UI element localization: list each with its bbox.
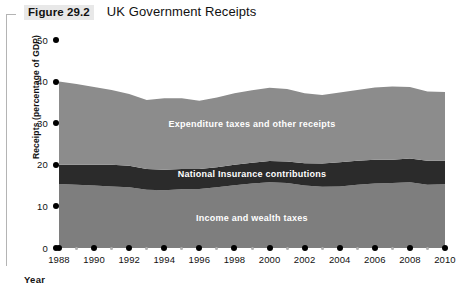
x-axis-label: Year (24, 274, 45, 285)
x-tick-label-1990: 1990 (79, 254, 109, 265)
x-tick-dot-1988 (56, 245, 62, 251)
x-tick-dot-2008 (407, 245, 413, 251)
x-minor-tick-dot-1989 (75, 247, 78, 250)
x-minor-tick-dot-1993 (145, 247, 148, 250)
x-tick-dot-2004 (337, 245, 343, 251)
y-tick-50: 50 (30, 35, 59, 45)
y-tick-10: 10 (30, 201, 59, 211)
page-border-rule (6, 14, 7, 266)
x-tick-dot-2000 (267, 245, 273, 251)
x-tick-dot-1992 (126, 245, 132, 251)
x-tick-dot-1994 (161, 245, 167, 251)
series-label-income-and-wealth-taxes: Income and wealth taxes (59, 213, 445, 223)
x-tick-dot-2002 (302, 245, 308, 251)
y-tick-30: 30 (30, 118, 59, 128)
x-tick-dot-1990 (91, 245, 97, 251)
y-tick-label: 50 (30, 35, 48, 46)
y-tick-label: 20 (30, 159, 48, 170)
x-tick-dot-2010 (442, 245, 448, 251)
x-minor-tick-dot-2001 (286, 247, 289, 250)
x-minor-tick-dot-1995 (180, 247, 183, 250)
x-tick-dot-1998 (231, 245, 237, 251)
x-tick-label-2004: 2004 (325, 254, 355, 265)
x-minor-tick-dot-1999 (251, 247, 254, 250)
x-tick-label-1998: 1998 (219, 254, 249, 265)
y-tick-label: 0 (30, 243, 48, 254)
x-tick-label-1992: 1992 (114, 254, 144, 265)
y-tick-40: 40 (30, 77, 59, 87)
y-tick-20: 20 (30, 160, 59, 170)
series-label-expenditure-taxes: Expenditure taxes and other receipts (59, 119, 445, 129)
figure-header: Figure 29.2 UK Government Receipts (24, 4, 256, 20)
x-tick-label-2000: 2000 (255, 254, 285, 265)
x-tick-label-2002: 2002 (290, 254, 320, 265)
x-minor-tick-dot-2005 (356, 247, 359, 250)
x-minor-tick-dot-2003 (321, 247, 324, 250)
x-tick-dot-2006 (372, 245, 378, 251)
x-tick-label-1996: 1996 (184, 254, 214, 265)
x-minor-tick-dot-2009 (426, 247, 429, 250)
y-tick-0: 0 (30, 243, 59, 253)
figure-title: UK Government Receipts (107, 4, 257, 19)
x-tick-label-1994: 1994 (149, 254, 179, 265)
y-tick-label: 30 (30, 118, 48, 129)
x-tick-label-2006: 2006 (360, 254, 390, 265)
series-label-national-insurance: National Insurance contributions (59, 169, 445, 179)
x-tick-dot-1996 (196, 245, 202, 251)
chart-plot-area: Expenditure taxes and other receipts Nat… (59, 40, 445, 248)
y-tick-label: 40 (30, 76, 48, 87)
page-border-rule-top (6, 14, 16, 15)
x-tick-label-2008: 2008 (395, 254, 425, 265)
x-tick-label-2010: 2010 (430, 254, 460, 265)
x-tick-label-1988: 1988 (44, 254, 74, 265)
x-minor-tick-dot-1991 (110, 247, 113, 250)
x-minor-tick-dot-2007 (391, 247, 394, 250)
y-tick-label: 10 (30, 201, 48, 212)
